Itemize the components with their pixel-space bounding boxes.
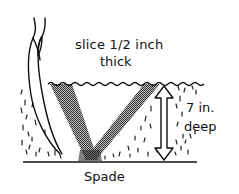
right-slice-band [84,84,160,160]
depth-label: 7 in. [186,101,214,114]
slice-thickness-label: slice 1/2 inch [75,38,163,51]
diagram-canvas [0,0,239,194]
slice-base-shade [78,150,102,161]
soil-sample-diagram: slice 1/2 inch thick 7 in. deep Spade [0,0,239,194]
v-cut [50,84,160,161]
left-slice-band [50,84,98,160]
tool-label: Spade [84,170,125,183]
depth-arrow-icon [155,86,173,160]
slice-thickness-label-2: thick [100,55,132,68]
depth-label-2: deep [184,120,217,133]
soil-surface-line [48,83,204,86]
